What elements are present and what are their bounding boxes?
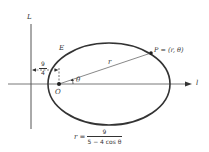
point-e-label: E bbox=[59, 45, 64, 52]
distance-arrow-left-icon bbox=[32, 68, 36, 71]
equation-fraction-bar bbox=[87, 136, 121, 137]
point-p-label: P = (r, θ) bbox=[154, 47, 183, 54]
angle-label: θ bbox=[76, 77, 80, 84]
distance-denominator: 4 bbox=[41, 69, 45, 76]
point-p bbox=[149, 51, 153, 55]
distance-fraction: 9 4 bbox=[39, 61, 47, 76]
equation-denominator: 5 − 4 cos θ bbox=[87, 138, 121, 145]
equation-numerator: 9 bbox=[103, 128, 107, 135]
origin-label: O bbox=[55, 89, 61, 96]
equation-lhs: r = bbox=[74, 133, 85, 141]
polar-axis-label: l bbox=[196, 80, 198, 87]
ellipse-equation: r = 9 5 − 4 cos θ bbox=[74, 128, 122, 145]
equation-fraction: 9 5 − 4 cos θ bbox=[87, 128, 121, 145]
distance-numerator: 9 bbox=[41, 60, 45, 67]
radius-label: r bbox=[108, 59, 111, 66]
distance-arrow-right-icon bbox=[55, 68, 59, 71]
polar-axis-arrow-icon bbox=[185, 82, 192, 87]
directrix-label: L bbox=[27, 14, 32, 21]
origin-point bbox=[57, 82, 61, 86]
